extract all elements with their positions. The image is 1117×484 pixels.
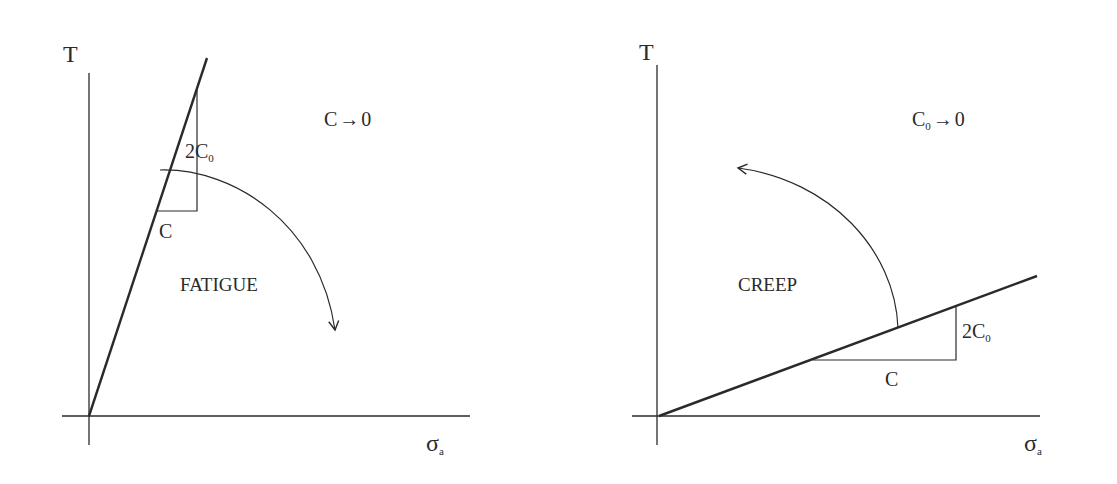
slope-rise-label: 2C0	[962, 320, 991, 344]
fatigue-region-label: FATIGUE	[180, 274, 258, 295]
limit-annotation: C→0	[324, 108, 371, 130]
creep-diagram: T σa 2C0 C C0→0 CREEP	[632, 39, 1042, 457]
sigma-axis-label: σa	[426, 430, 444, 457]
fatigue-diagram: T σa 2C0 C C→0 FATIGUE	[62, 41, 470, 457]
fatigue-boundary-line	[89, 58, 207, 416]
t-axis-label: T	[639, 39, 654, 65]
rotation-arrow	[160, 170, 335, 330]
slope-rise-label: 2C0	[185, 140, 214, 164]
slope-run-label: C	[885, 368, 898, 390]
sigma-axis-label: σa	[1024, 430, 1042, 457]
limit-annotation: C0→0	[912, 108, 965, 132]
slope-run-label: C	[159, 220, 172, 242]
creep-boundary-line	[659, 276, 1037, 416]
figure-canvas: T σa 2C0 C C→0 FATIGUE T σa 2C0 C	[0, 0, 1117, 484]
creep-region-label: CREEP	[738, 274, 797, 295]
rotation-arrow	[738, 168, 898, 328]
t-axis-label: T	[63, 41, 78, 67]
figure-stage: T σa 2C0 C C→0 FATIGUE T σa 2C0 C	[0, 0, 1117, 484]
